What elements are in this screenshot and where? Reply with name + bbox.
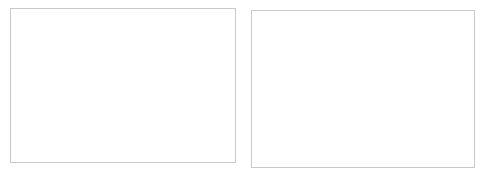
- scree-plot-panel: Eigen values 0.45 0.4 0.35 0.3 0.25 0.2 …: [0, 0, 243, 178]
- figure-container: Eigen values 0.45 0.4 0.35 0.3 0.25 0.2 …: [0, 0, 483, 178]
- loadings-plot-panel: 0,6 0,4 0,2 0 -0,2 -0,4 -0,6 -0,8 -1,0: [243, 0, 483, 178]
- loadings-plot-frame: [251, 10, 475, 168]
- scree-plot-frame: [10, 8, 236, 163]
